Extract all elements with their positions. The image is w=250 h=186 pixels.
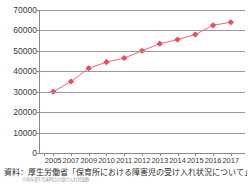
x-axis-tick-mark — [213, 153, 214, 156]
x-axis-tick-label: 2011 — [116, 157, 132, 165]
x-axis-tick-mark — [231, 153, 232, 156]
gridline — [39, 10, 245, 11]
y-axis-tick-label: 10000 — [1, 128, 37, 137]
source-caption: 資料：厚生労働省「保育所における障害児の受け入れ状況について」 — [4, 168, 250, 177]
gridline — [39, 71, 245, 72]
x-axis-tick-label: 2007 — [63, 157, 80, 165]
chart-figure: 010000200003000040000500006000070000 200… — [0, 0, 250, 186]
x-axis-tick-labels: 2005200720092010201120122013201420152016… — [0, 155, 250, 167]
x-axis-tick-mark — [53, 153, 54, 156]
gridline — [39, 51, 245, 52]
y-axis-spine — [39, 10, 40, 153]
data-point-marker — [229, 20, 233, 24]
data-point-marker — [104, 60, 108, 64]
x-axis-tick-mark — [106, 153, 107, 156]
gridline — [39, 112, 245, 113]
x-axis-tick-label: 2017 — [222, 157, 239, 165]
data-point-marker — [87, 66, 91, 70]
series-line — [53, 22, 231, 91]
x-axis-tick-label: 2014 — [169, 157, 186, 165]
x-axis-tick-mark — [124, 153, 125, 156]
x-axis-tick-label: 2012 — [134, 157, 151, 165]
y-axis-tick-label: 30000 — [1, 87, 37, 96]
data-point-marker — [122, 56, 126, 60]
source-caption-note: ※各年度3月末時点の受け入れ児童数 — [22, 178, 248, 183]
x-axis-tick-mark — [195, 153, 196, 156]
data-point-marker — [193, 33, 197, 37]
y-axis-tick-label: 20000 — [1, 108, 37, 117]
x-axis-tick-label: 2013 — [151, 157, 168, 165]
x-axis-tick-mark — [178, 153, 179, 156]
plot-area — [39, 10, 245, 153]
x-axis-tick-mark — [71, 153, 72, 156]
y-axis-tick-label: 50000 — [1, 47, 37, 56]
y-axis-tick-label: 40000 — [1, 67, 37, 76]
x-axis-tick-label: 2010 — [98, 157, 115, 165]
y-axis-tick-label: 60000 — [1, 26, 37, 35]
x-axis-tick-label: 2009 — [80, 157, 97, 165]
x-axis-tick-mark — [160, 153, 161, 156]
x-axis-tick-mark — [89, 153, 90, 156]
data-point-marker — [211, 23, 215, 27]
x-axis-tick-mark — [142, 153, 143, 156]
y-axis-tick-label: 70000 — [1, 6, 37, 15]
data-point-marker — [69, 80, 73, 84]
x-axis-tick-mark — [44, 153, 45, 156]
gridline — [39, 133, 245, 134]
x-axis-tick-label: 2005 — [45, 157, 62, 165]
x-axis-tick-label: 2016 — [205, 157, 222, 165]
gridline — [39, 30, 245, 31]
gridline — [39, 92, 245, 93]
x-axis-tick-label: 2015 — [187, 157, 204, 165]
data-point-marker — [158, 42, 162, 46]
line-series — [39, 10, 245, 153]
data-point-marker — [176, 38, 180, 42]
